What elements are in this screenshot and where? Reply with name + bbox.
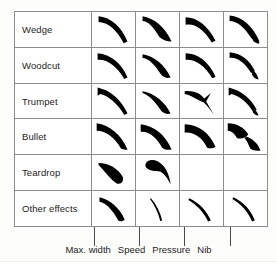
stroke-matrix-table: Wedge	[14, 11, 268, 227]
column-captions: Max. width Speed Pressure Nib	[0, 243, 277, 261]
stroke-cell-bullet-max-width[interactable]	[92, 119, 136, 154]
trumpet-stroke-pressure-icon	[180, 84, 223, 119]
stroke-cell-bullet-nib[interactable]	[224, 119, 267, 154]
woodcut-stroke-pressure-icon	[180, 48, 223, 83]
stroke-cell-wedge-pressure[interactable]	[180, 12, 224, 47]
stroke-cell-bullet-speed[interactable]	[136, 119, 180, 154]
stroke-cell-teardrop-max-width[interactable]	[92, 155, 136, 190]
row-label-text: Wedge	[22, 24, 52, 35]
stroke-cell-woodcut-speed[interactable]	[136, 48, 180, 83]
row-label-text: Trumpet	[22, 96, 58, 107]
bullet-stroke-max-width-icon	[92, 119, 135, 154]
row-label-text: Other effects	[22, 203, 78, 214]
stroke-cell-bullet-pressure[interactable]	[180, 119, 224, 154]
bullet-stroke-speed-icon	[136, 119, 179, 154]
stroke-cell-other-speed[interactable]	[136, 191, 180, 226]
wedge-stroke-nib-icon	[224, 12, 267, 47]
stroke-cell-wedge-max-width[interactable]	[92, 12, 136, 47]
row-label-text: Bullet	[22, 131, 46, 142]
footer-divider	[0, 261, 277, 262]
other-stroke-pressure-icon	[180, 191, 223, 226]
other-stroke-nib-icon	[224, 191, 267, 226]
wedge-stroke-speed-icon	[136, 12, 179, 47]
row-label-text: Teardrop	[22, 167, 60, 178]
bullet-stroke-nib-icon	[224, 119, 267, 154]
stroke-cell-other-max-width[interactable]	[92, 191, 136, 226]
table-row: Woodcut	[15, 48, 267, 84]
trumpet-stroke-max-width-icon	[92, 84, 135, 119]
wedge-stroke-pressure-icon	[180, 12, 223, 47]
row-label-text: Woodcut	[22, 60, 60, 71]
table-row: Wedge	[15, 12, 267, 48]
row-label-bullet: Bullet	[15, 119, 92, 154]
stroke-cell-woodcut-pressure[interactable]	[180, 48, 224, 83]
stroke-cell-trumpet-nib[interactable]	[224, 84, 267, 119]
stroke-cell-teardrop-pressure-empty[interactable]	[180, 155, 224, 190]
row-label-trumpet: Trumpet	[15, 84, 92, 119]
stroke-cell-wedge-nib[interactable]	[224, 12, 267, 47]
column-caption-max-width: Max. width	[65, 243, 110, 256]
stroke-cell-wedge-speed[interactable]	[136, 12, 180, 47]
bullet-stroke-pressure-icon	[180, 119, 223, 154]
table-row: Teardrop	[15, 155, 267, 191]
stroke-cell-other-pressure[interactable]	[180, 191, 224, 226]
stroke-cell-woodcut-nib[interactable]	[224, 48, 267, 83]
teardrop-stroke-max-width-icon	[92, 155, 135, 190]
table-row: Bullet	[15, 119, 267, 155]
stroke-cell-trumpet-max-width[interactable]	[92, 84, 136, 119]
wedge-stroke-max-width-icon	[92, 12, 135, 47]
row-label-teardrop: Teardrop	[15, 155, 92, 190]
table-row: Other effects	[15, 191, 267, 226]
trumpet-stroke-speed-icon	[136, 84, 179, 119]
figure-root: Wedge	[0, 0, 277, 264]
woodcut-stroke-max-width-icon	[92, 48, 135, 83]
stroke-cell-trumpet-pressure[interactable]	[180, 84, 224, 119]
column-caption-nib: Nib	[197, 243, 211, 256]
row-label-wedge: Wedge	[15, 12, 92, 47]
column-caption-speed: Speed	[118, 243, 145, 256]
stroke-cell-teardrop-speed[interactable]	[136, 155, 180, 190]
trumpet-stroke-nib-icon	[224, 84, 267, 119]
stroke-cell-teardrop-nib-empty[interactable]	[224, 155, 267, 190]
stroke-cell-woodcut-max-width[interactable]	[92, 48, 136, 83]
stroke-cell-trumpet-speed[interactable]	[136, 84, 180, 119]
stroke-cell-other-nib[interactable]	[224, 191, 267, 226]
table-row: Trumpet	[15, 84, 267, 120]
woodcut-stroke-speed-icon	[136, 48, 179, 83]
row-label-woodcut: Woodcut	[15, 48, 92, 83]
row-label-other-effects: Other effects	[15, 191, 92, 226]
woodcut-stroke-nib-icon	[224, 48, 267, 83]
other-stroke-speed-icon	[136, 191, 179, 226]
other-stroke-max-width-icon	[92, 191, 135, 226]
teardrop-stroke-speed-icon	[136, 155, 179, 190]
column-caption-pressure: Pressure	[152, 243, 190, 256]
